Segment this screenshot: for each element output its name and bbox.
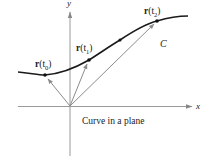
curve-direction-dot	[119, 39, 122, 42]
curve-label-c: C	[160, 38, 167, 49]
vector-r-t0	[48, 79, 70, 106]
label-r-t2: r(t2)	[144, 6, 160, 18]
curve-in-plane-diagram: x y r(t0) r(t1) r(t2) C Curve in a plane	[0, 0, 213, 157]
x-axis-label: x	[195, 101, 200, 111]
point-r-t2	[155, 19, 159, 23]
label-r-t0: r(t0)	[35, 59, 51, 71]
label-r-t1: r(t1)	[76, 43, 92, 55]
vector-r-t1	[70, 64, 87, 106]
point-r-t1	[87, 58, 91, 62]
figure-caption: Curve in a plane	[82, 116, 145, 126]
vector-r-t2	[70, 24, 154, 106]
point-r-t0	[43, 73, 47, 77]
y-axis-label: y	[66, 0, 71, 8]
